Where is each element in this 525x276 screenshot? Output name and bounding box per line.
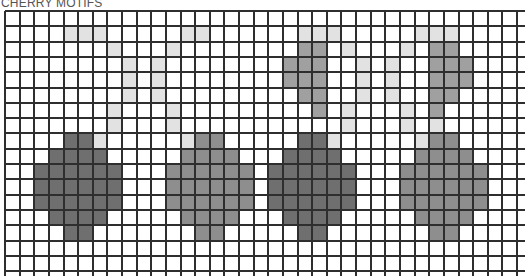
grid-line-vertical — [472, 11, 474, 276]
grid-line-vertical — [106, 11, 108, 276]
grid-line-vertical — [399, 11, 401, 276]
grid-line-vertical — [458, 11, 460, 276]
grid-line-vertical — [150, 11, 152, 276]
grid-line-horizontal — [5, 194, 525, 196]
grid-line-vertical — [209, 11, 211, 276]
grid-line-horizontal — [5, 71, 525, 73]
grid-line-horizontal — [5, 132, 525, 134]
grid-line-vertical — [194, 11, 196, 276]
grid-line-vertical — [443, 11, 445, 276]
grid-line-vertical — [180, 11, 182, 276]
grid-line-horizontal — [5, 209, 525, 211]
grid-line-horizontal — [5, 87, 525, 89]
grid-line-vertical — [428, 11, 430, 276]
grid-line-vertical — [165, 11, 167, 276]
chart-title: CHERRY MOTIFS — [1, 0, 103, 10]
grid-line-horizontal — [5, 25, 525, 27]
grid-line-vertical — [48, 11, 50, 276]
grid-line-vertical — [487, 11, 489, 276]
grid-line-vertical — [340, 11, 342, 276]
grid-line-horizontal — [5, 56, 525, 58]
grid-line-horizontal — [5, 117, 525, 119]
grid-line-vertical — [253, 11, 255, 276]
grid-line-vertical — [501, 11, 503, 276]
grid-line-vertical — [63, 11, 65, 276]
grid-line-horizontal — [5, 41, 525, 43]
grid-line-vertical — [267, 11, 269, 276]
grid-line-vertical — [77, 11, 79, 276]
grid-line-horizontal — [5, 224, 525, 226]
grid-line-horizontal — [5, 270, 525, 272]
grid-line-horizontal — [5, 178, 525, 180]
grid-line-horizontal — [5, 163, 525, 165]
grid-line-vertical — [326, 11, 328, 276]
grid-line-vertical — [311, 11, 313, 276]
grid-line-vertical — [223, 11, 225, 276]
grid-line-horizontal — [5, 240, 525, 242]
grid-line-vertical — [516, 11, 518, 276]
cross-stitch-grid — [5, 11, 525, 276]
grid-line-horizontal — [5, 102, 525, 104]
grid-line-vertical — [370, 11, 372, 276]
grid-line-vertical — [4, 11, 6, 276]
grid-line-horizontal — [5, 10, 525, 12]
grid-line-vertical — [19, 11, 21, 276]
grid-line-vertical — [33, 11, 35, 276]
grid-line-horizontal — [5, 148, 525, 150]
grid-line-vertical — [238, 11, 240, 276]
grid-line-vertical — [121, 11, 123, 276]
grid-line-vertical — [414, 11, 416, 276]
grid-line-vertical — [355, 11, 357, 276]
grid-line-vertical — [136, 11, 138, 276]
grid-line-vertical — [384, 11, 386, 276]
grid-line-horizontal — [5, 255, 525, 257]
grid-line-vertical — [92, 11, 94, 276]
grid-line-vertical — [297, 11, 299, 276]
grid-line-vertical — [282, 11, 284, 276]
